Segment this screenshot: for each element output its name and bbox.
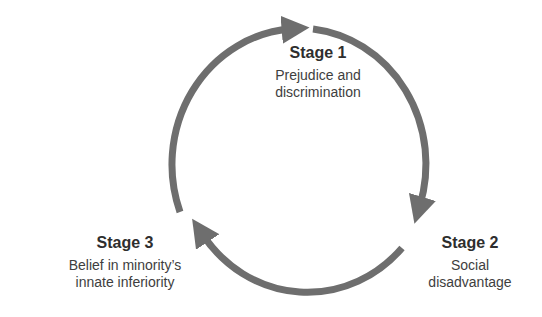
- stage-2-desc-line1: Social: [410, 257, 530, 274]
- stage-1-desc-line1: Prejudice and: [258, 67, 378, 84]
- stage-1-title: Stage 1: [258, 43, 378, 63]
- stage-3-description: Belief in minority’s innate inferiority: [55, 257, 195, 291]
- stage-2-node: Stage 2 Social disadvantage: [410, 233, 530, 291]
- stage-3-node: Stage 3 Belief in minority’s innate infe…: [55, 233, 195, 291]
- stage-1-desc-line2: discrimination: [258, 84, 378, 101]
- stage-3-desc-line1: Belief in minority’s: [55, 257, 195, 274]
- stage-2-description: Social disadvantage: [410, 257, 530, 291]
- stage-1-node: Stage 1 Prejudice and discrimination: [258, 43, 378, 101]
- stage-3-desc-line2: innate inferiority: [55, 274, 195, 291]
- arrow-stage2-to-stage3: [203, 235, 402, 292]
- stage-2-title: Stage 2: [410, 233, 530, 253]
- stage-3-title: Stage 3: [55, 233, 195, 253]
- stage-2-desc-line2: disadvantage: [410, 274, 530, 291]
- stage-1-description: Prejudice and discrimination: [258, 67, 378, 101]
